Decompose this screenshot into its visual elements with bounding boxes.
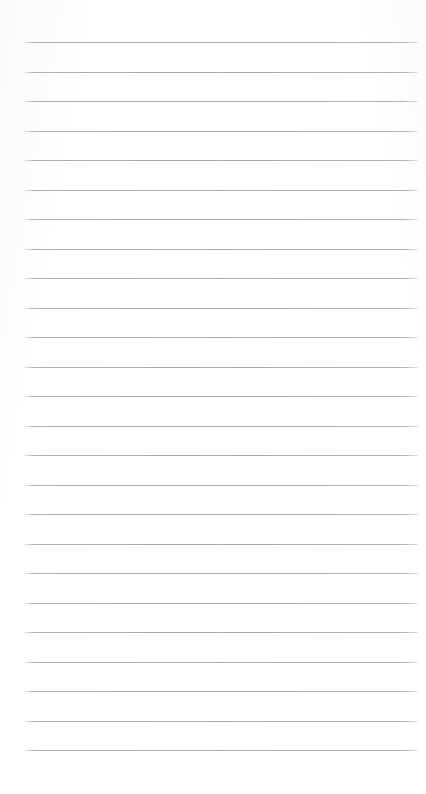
rule-line: [25, 42, 418, 43]
text-line[interactable]: [25, 258, 418, 278]
text-line[interactable]: [25, 347, 418, 367]
text-line[interactable]: [25, 642, 418, 662]
text-line[interactable]: [25, 553, 418, 573]
text-line[interactable]: [25, 81, 418, 101]
text-line[interactable]: [25, 612, 418, 632]
rule-line: [25, 367, 418, 368]
text-line[interactable]: [25, 140, 418, 160]
rule-line: [25, 72, 418, 73]
rule-line: [25, 750, 418, 751]
text-line[interactable]: [25, 671, 418, 691]
rule-line: [25, 573, 418, 574]
text-line[interactable]: [25, 111, 418, 131]
rule-line: [25, 691, 418, 692]
text-line[interactable]: [25, 317, 418, 337]
rule-line: [25, 632, 418, 633]
rule-line: [25, 308, 418, 309]
rule-line: [25, 219, 418, 220]
rule-line: [25, 485, 418, 486]
text-line[interactable]: [25, 701, 418, 721]
rule-line: [25, 337, 418, 338]
text-line[interactable]: [25, 52, 418, 72]
text-line[interactable]: [25, 730, 418, 750]
rule-line: [25, 514, 418, 515]
rule-line: [25, 278, 418, 279]
rule-line: [25, 160, 418, 161]
text-line[interactable]: [25, 435, 418, 455]
rule-line: [25, 190, 418, 191]
rule-line: [25, 249, 418, 250]
text-line[interactable]: [25, 199, 418, 219]
text-line[interactable]: [25, 229, 418, 249]
lined-paper-page: [0, 0, 426, 794]
rule-line: [25, 603, 418, 604]
rule-line: [25, 426, 418, 427]
rule-line: [25, 131, 418, 132]
text-line[interactable]: [25, 406, 418, 426]
rule-line: [25, 455, 418, 456]
text-line[interactable]: [25, 465, 418, 485]
text-line[interactable]: [25, 524, 418, 544]
rule-line: [25, 662, 418, 663]
rule-line: [25, 396, 418, 397]
rule-line: [25, 544, 418, 545]
text-line[interactable]: [25, 170, 418, 190]
rule-line: [25, 721, 418, 722]
text-line[interactable]: [25, 583, 418, 603]
text-line[interactable]: [25, 494, 418, 514]
text-line[interactable]: [25, 22, 418, 42]
text-line[interactable]: [25, 288, 418, 308]
rule-line: [25, 101, 418, 102]
text-line[interactable]: [25, 376, 418, 396]
